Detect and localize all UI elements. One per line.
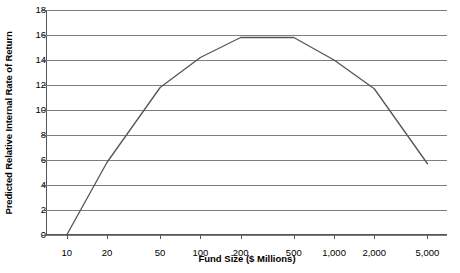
x-axis-tick-mark: [241, 235, 242, 239]
y-axis-title: Predicted Relative Internal Rate of Retu…: [2, 3, 16, 243]
x-axis-tick-mark: [334, 235, 335, 239]
y-axis-tick-mark: [42, 235, 46, 236]
x-axis-tick-mark: [107, 235, 108, 239]
x-axis-tick-mark: [200, 235, 201, 239]
series-line-predicted-relative-irr: [46, 10, 447, 235]
plot-area: 024681012141618 1020501002005001,0002,00…: [46, 10, 447, 235]
x-axis-title: Fund Size ($ Millions): [45, 253, 449, 264]
chart-figure: Predicted Relative Internal Rate of Retu…: [0, 0, 460, 273]
x-axis-tick-mark: [374, 235, 375, 239]
x-axis-tick-mark: [160, 235, 161, 239]
x-axis-tick-mark: [427, 235, 428, 239]
x-axis-tick-mark: [294, 235, 295, 239]
